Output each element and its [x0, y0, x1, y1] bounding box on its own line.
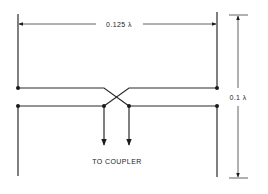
feed-schematic: 0.125 λ 0.1 λ TO COUPLER	[0, 0, 268, 194]
feed-junction-dot	[102, 104, 106, 108]
height-dimension-label: 0.1 λ	[229, 94, 246, 101]
junction-dot	[215, 86, 219, 90]
width-dimension: 0.125 λ	[19, 21, 216, 28]
width-dimension-label: 0.125 λ	[106, 21, 132, 28]
feed-label: TO COUPLER	[92, 158, 141, 165]
junction-dot	[16, 86, 20, 90]
junction-dot	[215, 104, 219, 108]
height-dimension: 0.1 λ	[229, 15, 248, 178]
feed-junction-dot	[127, 104, 131, 108]
crossover-line-b	[104, 88, 217, 106]
crossover-line-a	[18, 88, 129, 106]
junction-dot	[16, 104, 20, 108]
